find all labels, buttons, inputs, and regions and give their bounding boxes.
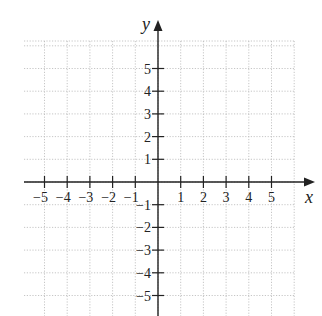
y-tick-label: 4 bbox=[144, 84, 151, 99]
x-tick-label: 5 bbox=[268, 190, 275, 205]
y-tick-label: −4 bbox=[136, 266, 151, 281]
x-tick-label: 2 bbox=[200, 190, 207, 205]
x-ticks: −5−4−3−2−112345 bbox=[33, 176, 275, 205]
x-tick-label: 1 bbox=[177, 190, 184, 205]
coordinate-plane: −5−4−3−2−112345 −5−4−3−2−112345 x y bbox=[0, 0, 322, 316]
x-tick-label: −3 bbox=[78, 190, 93, 205]
y-axis-arrow-icon bbox=[154, 20, 163, 31]
x-tick-label: 4 bbox=[245, 190, 252, 205]
y-tick-label: −1 bbox=[136, 198, 151, 213]
y-tick-label: 1 bbox=[144, 152, 151, 167]
y-tick-label: 3 bbox=[144, 107, 151, 122]
y-tick-label: −5 bbox=[136, 289, 151, 304]
x-tick-label: 3 bbox=[223, 190, 230, 205]
x-tick-label: −5 bbox=[33, 190, 48, 205]
y-tick-label: −2 bbox=[136, 220, 151, 235]
y-tick-label: 5 bbox=[144, 62, 151, 77]
y-tick-label: 2 bbox=[144, 130, 151, 145]
x-tick-label: −2 bbox=[101, 190, 116, 205]
grid-lines bbox=[24, 41, 295, 316]
x-axis-arrow-icon bbox=[304, 178, 315, 187]
x-tick-label: −4 bbox=[56, 190, 71, 205]
y-tick-label: −3 bbox=[136, 243, 151, 258]
x-axis-label: x bbox=[304, 187, 313, 207]
y-axis-label: y bbox=[140, 14, 150, 34]
